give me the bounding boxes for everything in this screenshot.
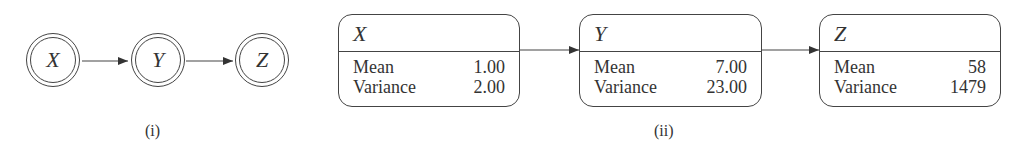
stat-row-variance: Variance23.00: [580, 77, 761, 97]
node-y-box: Y Mean7.00 Variance23.00: [579, 14, 762, 107]
stat-row-mean: Mean1.00: [339, 57, 519, 77]
node-label: Y: [135, 37, 181, 83]
node-y-circle: Y: [131, 33, 185, 87]
stat-row-mean: Mean58: [820, 57, 1000, 77]
caption-i: (i): [145, 122, 160, 140]
caption-ii: (ii): [654, 122, 674, 140]
node-title: X: [339, 15, 519, 52]
stat-row-mean: Mean7.00: [580, 57, 761, 77]
stat-row-variance: Variance1479: [820, 77, 1000, 97]
node-z-box: Z Mean58 Variance1479: [819, 14, 1001, 107]
node-x-circle: X: [26, 33, 80, 87]
node-label: Z: [239, 37, 285, 83]
node-x-box: X Mean1.00 Variance2.00: [338, 14, 520, 107]
stat-row-variance: Variance2.00: [339, 77, 519, 97]
node-title: Z: [820, 15, 1000, 52]
node-z-circle: Z: [235, 33, 289, 87]
node-title: Y: [580, 15, 761, 52]
node-label: X: [30, 37, 76, 83]
